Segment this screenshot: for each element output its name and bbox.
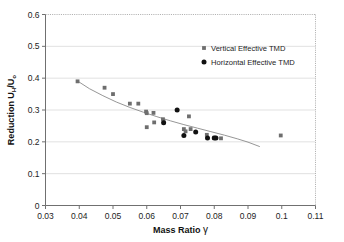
data-point-square xyxy=(136,102,140,106)
x-tick-label: 0.09 xyxy=(240,211,257,221)
data-point-square xyxy=(145,125,149,129)
legend-marker-circle xyxy=(202,60,207,65)
x-tick-label: 0.11 xyxy=(308,211,324,221)
chart-figure: 0.030.040.050.060.070.080.090.10.11 00.1… xyxy=(0,0,344,242)
data-point-circle xyxy=(193,129,198,134)
x-tick-label: 0.08 xyxy=(206,211,223,221)
data-point-circle xyxy=(181,133,186,138)
data-point-square xyxy=(279,134,283,138)
data-point-square xyxy=(219,136,223,140)
data-point-square xyxy=(189,127,193,131)
y-tick-label: 0.5 xyxy=(28,41,40,51)
data-point-circle xyxy=(175,108,180,113)
x-tick-label: 0.05 xyxy=(105,211,122,221)
data-point-square xyxy=(111,92,115,96)
y-tick-label: 0.2 xyxy=(28,137,40,147)
data-point-square xyxy=(76,79,80,83)
x-tick-label: 0.03 xyxy=(37,211,54,221)
data-point-circle xyxy=(161,120,166,125)
x-tick-label: 0.07 xyxy=(172,211,189,221)
data-point-square xyxy=(184,129,188,133)
data-point-circle xyxy=(213,136,218,141)
y-tick-label: 0.3 xyxy=(28,105,40,115)
gamma-symbol: γ xyxy=(203,224,208,235)
data-point-circle xyxy=(205,136,210,141)
data-point-square xyxy=(152,121,156,125)
y-tick-label: 0.1 xyxy=(28,169,40,179)
data-point-square xyxy=(145,111,149,115)
scatter-chart: 0.030.040.050.060.070.080.090.10.11 00.1… xyxy=(0,0,344,242)
legend-marker-square xyxy=(202,46,206,50)
y-tick-label: 0 xyxy=(35,201,40,211)
x-tick-label: 0.04 xyxy=(71,211,88,221)
legend-label[interactable]: Horizontal Effective TMD xyxy=(211,58,295,67)
data-point-square xyxy=(187,114,191,118)
y-axis-title-group: Reduction UH/Uo xyxy=(6,75,17,145)
data-point-square xyxy=(103,86,107,90)
data-point-square xyxy=(152,111,156,115)
y-axis-title: Reduction UH/Uo xyxy=(6,75,17,145)
legend-label[interactable]: Vertical Effective TMD xyxy=(211,44,286,53)
data-point-square xyxy=(128,102,132,106)
x-tick-label: 0.06 xyxy=(138,211,155,221)
y-tick-label: 0.4 xyxy=(28,73,40,83)
x-axis-title: Mass Ratio γ xyxy=(153,224,208,235)
x-tick-label: 0.1 xyxy=(276,211,288,221)
y-tick-label: 0.6 xyxy=(28,10,40,20)
x-tick-labels: 0.030.040.050.060.070.080.090.10.11 xyxy=(37,211,323,221)
